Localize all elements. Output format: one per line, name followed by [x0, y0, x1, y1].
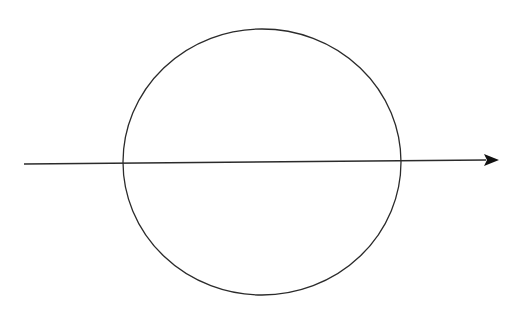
diagram-canvas [0, 0, 517, 315]
arrow-line [24, 160, 486, 164]
arrowhead-icon [484, 154, 499, 166]
diagram-svg [0, 0, 517, 315]
